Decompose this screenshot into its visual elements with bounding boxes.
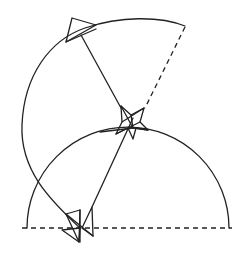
upper-arc: [22, 19, 185, 228]
solid-radius-top: [81, 35, 121, 108]
diagram-canvas: [0, 0, 241, 264]
lower-semicircle: [27, 127, 229, 228]
bottom-triangles-marker: [62, 207, 93, 242]
dashed-radius: [145, 27, 185, 108]
pivot-star-marker: [100, 106, 148, 139]
geometry-diagram: [0, 0, 241, 264]
